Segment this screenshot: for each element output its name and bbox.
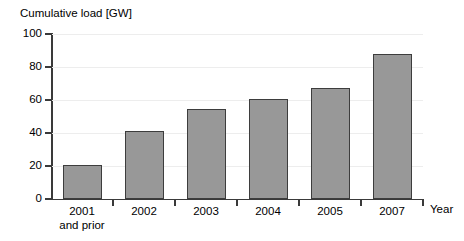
x-axis-tick-label: 2001and prior (51, 205, 113, 232)
y-axis-tick-label: 80 (0, 61, 42, 73)
y-axis-tick (45, 99, 52, 101)
x-axis-tick-label: 2003 (175, 205, 237, 219)
y-axis-tick-label: 100 (0, 28, 42, 40)
x-axis-tick-label-line1: 2001 (69, 205, 95, 217)
x-axis-tick-label: 2007 (361, 205, 423, 219)
y-axis-tick-label: 60 (0, 94, 42, 106)
gridline (51, 100, 423, 101)
x-axis-tick-label-line1: 2003 (193, 205, 219, 217)
y-axis-tick (45, 132, 52, 134)
x-axis-tick-label: 2002 (113, 205, 175, 219)
gridline (51, 67, 423, 68)
x-axis-tick-label-line1: 2005 (317, 205, 343, 217)
x-axis-tick-label-line1: 2007 (379, 205, 405, 217)
bar-chart: Cumulative load [GW] 020406080100 2001an… (0, 0, 464, 241)
x-axis-title: Year (430, 203, 453, 216)
y-axis-tick (45, 165, 52, 167)
gridline (51, 133, 423, 134)
y-axis-tick (45, 66, 52, 68)
bar (187, 109, 226, 199)
y-axis-tick (45, 198, 52, 200)
x-axis-tick-label-line2: and prior (51, 219, 113, 233)
gridline (51, 166, 423, 167)
bar (125, 131, 164, 199)
x-axis-tick-label-line1: 2002 (131, 205, 157, 217)
gridline (51, 34, 423, 35)
x-axis-tick-label: 2004 (237, 205, 299, 219)
plot-area (51, 34, 423, 199)
x-axis-tick-label: 2005 (299, 205, 361, 219)
y-axis-tick-label: 20 (0, 160, 42, 172)
bar (249, 99, 288, 199)
bar (311, 88, 350, 199)
y-axis-tick (45, 33, 52, 35)
x-axis-tick-label-line1: 2004 (255, 205, 281, 217)
y-axis-tick-label: 0 (0, 193, 42, 205)
bar (373, 54, 412, 199)
bar (63, 165, 102, 199)
y-axis-tick-label: 40 (0, 127, 42, 139)
chart-title: Cumulative load [GW] (20, 6, 132, 20)
